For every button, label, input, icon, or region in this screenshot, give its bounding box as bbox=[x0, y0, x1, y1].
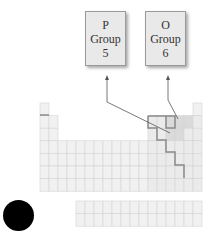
table-cell bbox=[130, 201, 139, 214]
table-cell bbox=[166, 116, 175, 129]
table-cell bbox=[157, 179, 166, 192]
table-cell bbox=[193, 141, 202, 154]
table-cell bbox=[175, 128, 184, 141]
table-cell bbox=[157, 153, 166, 166]
table-cell bbox=[184, 166, 193, 179]
table-cell bbox=[112, 153, 121, 166]
table-cell bbox=[166, 214, 175, 227]
table-cell bbox=[49, 128, 58, 141]
table-cell bbox=[148, 128, 157, 141]
table-cell bbox=[67, 179, 76, 192]
table-cell bbox=[121, 214, 130, 227]
table-cell bbox=[40, 166, 49, 179]
table-cell bbox=[94, 214, 103, 227]
table-cell bbox=[85, 141, 94, 154]
table-cell bbox=[121, 201, 130, 214]
table-cell bbox=[49, 179, 58, 192]
table-cell bbox=[67, 153, 76, 166]
table-cell bbox=[94, 201, 103, 214]
table-cell bbox=[121, 166, 130, 179]
table-cell bbox=[166, 201, 175, 214]
table-cell bbox=[40, 128, 49, 141]
table-cell bbox=[121, 153, 130, 166]
table-cell bbox=[40, 141, 49, 154]
table-cell bbox=[184, 201, 193, 214]
table-cell bbox=[175, 153, 184, 166]
table-cell bbox=[166, 179, 175, 192]
table-cell bbox=[67, 141, 76, 154]
table-cell bbox=[121, 141, 130, 154]
table-cell bbox=[40, 116, 49, 129]
table-cell bbox=[130, 141, 139, 154]
table-cell bbox=[175, 141, 184, 154]
table-cell bbox=[58, 153, 67, 166]
table-cell bbox=[58, 179, 67, 192]
table-cell bbox=[130, 179, 139, 192]
table-cell bbox=[112, 201, 121, 214]
table-cell bbox=[94, 179, 103, 192]
table-cell bbox=[148, 214, 157, 227]
table-cell bbox=[112, 166, 121, 179]
f-block-grid bbox=[76, 201, 202, 226]
table-cell bbox=[49, 116, 58, 129]
table-cell bbox=[157, 214, 166, 227]
table-cell bbox=[175, 166, 184, 179]
table-cell bbox=[148, 166, 157, 179]
table-cell bbox=[67, 166, 76, 179]
table-cell bbox=[85, 179, 94, 192]
table-cell bbox=[139, 179, 148, 192]
table-cell bbox=[157, 201, 166, 214]
table-cell bbox=[184, 141, 193, 154]
table-cell bbox=[76, 153, 85, 166]
table-cell bbox=[103, 201, 112, 214]
table-cell bbox=[40, 179, 49, 192]
table-cell bbox=[148, 141, 157, 154]
table-cell bbox=[193, 201, 202, 214]
table-cell bbox=[130, 153, 139, 166]
table-cell bbox=[139, 214, 148, 227]
table-cell bbox=[193, 103, 202, 116]
table-cell bbox=[139, 201, 148, 214]
table-cell bbox=[193, 128, 202, 141]
table-cell bbox=[184, 116, 193, 129]
table-cell bbox=[130, 166, 139, 179]
table-cell bbox=[103, 166, 112, 179]
table-cell bbox=[76, 214, 85, 227]
table-cell bbox=[148, 153, 157, 166]
table-cell bbox=[112, 179, 121, 192]
table-cell bbox=[157, 141, 166, 154]
table-cell bbox=[40, 103, 49, 116]
table-cell bbox=[103, 141, 112, 154]
table-cell bbox=[85, 153, 94, 166]
table-cell bbox=[49, 166, 58, 179]
table-cell bbox=[85, 201, 94, 214]
table-cell bbox=[76, 179, 85, 192]
table-cell bbox=[139, 166, 148, 179]
table-cell bbox=[175, 214, 184, 227]
black-dot-marker bbox=[3, 200, 34, 231]
table-cell bbox=[184, 179, 193, 192]
table-cell bbox=[112, 141, 121, 154]
table-cell bbox=[193, 116, 202, 129]
table-cell bbox=[85, 166, 94, 179]
table-cell bbox=[112, 214, 121, 227]
table-cell bbox=[76, 141, 85, 154]
table-cell bbox=[193, 179, 202, 192]
table-cell bbox=[139, 153, 148, 166]
table-cell bbox=[166, 153, 175, 166]
table-cell bbox=[139, 141, 148, 154]
table-cell bbox=[76, 166, 85, 179]
table-cell bbox=[184, 214, 193, 227]
table-cell bbox=[175, 179, 184, 192]
table-cell bbox=[184, 153, 193, 166]
table-cell bbox=[157, 116, 166, 129]
table-cell bbox=[121, 179, 130, 192]
table-cell bbox=[58, 166, 67, 179]
table-cell bbox=[193, 214, 202, 227]
table-cell bbox=[40, 153, 49, 166]
table-cell bbox=[175, 201, 184, 214]
main-grid bbox=[40, 103, 202, 191]
table-cell bbox=[184, 128, 193, 141]
table-cell bbox=[175, 116, 184, 129]
table-cell bbox=[76, 201, 85, 214]
